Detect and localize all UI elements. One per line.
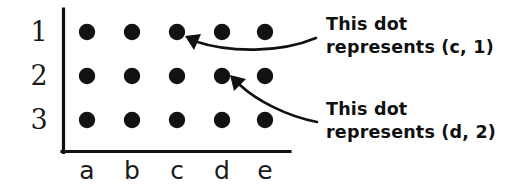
data-point bbox=[79, 24, 95, 40]
annotation-arrow-d2 bbox=[240, 85, 317, 122]
data-point bbox=[124, 24, 140, 40]
annotation-c1-line-1: This dot bbox=[326, 13, 494, 36]
y-axis-label-2: 2 bbox=[26, 62, 52, 89]
x-axis-label-a: a bbox=[72, 158, 102, 183]
data-point bbox=[257, 24, 273, 40]
x-axis-label-e: e bbox=[250, 158, 280, 183]
data-point bbox=[124, 112, 140, 128]
data-point bbox=[257, 68, 273, 84]
scatter-diagram: 1 2 3 a b c d e This dot represents (c, … bbox=[0, 0, 513, 188]
x-axis-label-c: c bbox=[162, 158, 192, 183]
annotation-text-d2: This dot represents (d, 2) bbox=[326, 98, 496, 144]
data-point bbox=[169, 68, 185, 84]
data-point bbox=[214, 112, 230, 128]
data-point bbox=[214, 24, 230, 40]
y-axis-label-1: 1 bbox=[26, 18, 52, 45]
x-axis-label-d: d bbox=[207, 158, 237, 183]
annotation-text-c1: This dot represents (c, 1) bbox=[326, 13, 494, 59]
y-axis-label-3: 3 bbox=[26, 106, 52, 133]
data-point bbox=[214, 68, 230, 84]
data-point bbox=[79, 68, 95, 84]
data-point bbox=[124, 68, 140, 84]
annotation-d2-line-1: This dot bbox=[326, 98, 496, 121]
data-point bbox=[169, 24, 185, 40]
data-point bbox=[79, 112, 95, 128]
x-axis-label-b: b bbox=[117, 158, 147, 183]
annotation-d2-line-2: represents (d, 2) bbox=[326, 121, 496, 144]
data-point bbox=[257, 112, 273, 128]
annotation-arrow-c1 bbox=[194, 38, 316, 50]
data-point bbox=[169, 112, 185, 128]
annotation-c1-line-2: represents (c, 1) bbox=[326, 36, 494, 59]
